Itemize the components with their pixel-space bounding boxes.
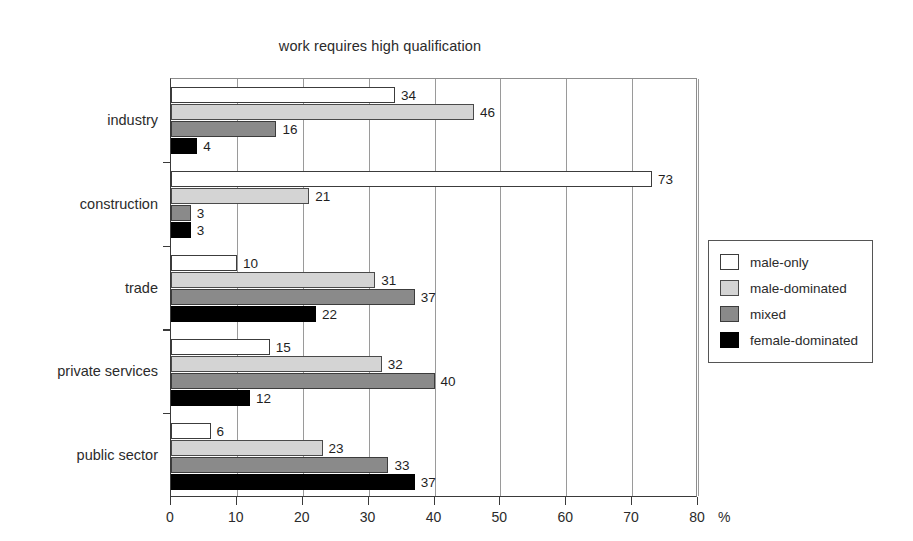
category-label-trade: trade — [0, 280, 158, 296]
bar-group: 15324012 — [171, 330, 696, 414]
legend-item-male-only[interactable]: male-only — [720, 253, 809, 271]
legend-label: male-only — [750, 255, 809, 270]
bar-row: 4 — [171, 138, 696, 154]
category-label-private-services: private services — [0, 363, 158, 379]
bar-male-only[interactable] — [171, 255, 237, 271]
category-axis-tick — [163, 162, 171, 163]
bar-row: 22 — [171, 306, 696, 322]
bar-male-dominated[interactable] — [171, 104, 474, 120]
legend-item-female-dominated[interactable]: female-dominated — [720, 331, 858, 349]
bar-male-only[interactable] — [171, 171, 652, 187]
bar-male-dominated[interactable] — [171, 356, 382, 372]
bar-female-dominated[interactable] — [171, 138, 197, 154]
bar-row: 21 — [171, 188, 696, 204]
bar-mixed[interactable] — [171, 205, 191, 221]
bar-male-only[interactable] — [171, 87, 395, 103]
legend-swatch-male-dominated-icon — [720, 280, 739, 296]
bar-female-dominated[interactable] — [171, 390, 250, 406]
bar-mixed[interactable] — [171, 373, 435, 389]
value-axis-tick — [302, 497, 303, 505]
bar-male-dominated[interactable] — [171, 440, 323, 456]
bar-row: 40 — [171, 373, 696, 389]
bar-row: 12 — [171, 390, 696, 406]
bar-mixed[interactable] — [171, 457, 388, 473]
category-axis-tick — [163, 413, 171, 414]
bar-value-label: 22 — [316, 306, 337, 321]
bar-value-label: 33 — [388, 457, 409, 472]
bar-row: 37 — [171, 474, 696, 490]
bar-female-dominated[interactable] — [171, 306, 316, 322]
value-axis-tick-label: 40 — [426, 509, 442, 525]
value-axis-tick-label: 10 — [228, 509, 244, 525]
value-axis: 01020304050607080 — [170, 497, 697, 498]
bar-value-label: 12 — [250, 390, 271, 405]
bar-value-label: 4 — [197, 139, 211, 154]
bar-value-label: 31 — [375, 272, 396, 287]
bar-row: 23 — [171, 440, 696, 456]
bar-female-dominated[interactable] — [171, 474, 415, 490]
bar-group: 10313722 — [171, 247, 696, 331]
value-axis-tick — [631, 497, 632, 505]
bar-row: 73 — [171, 171, 696, 187]
bar-value-label: 16 — [276, 122, 297, 137]
category-axis-labels: industryconstructiontradeprivate service… — [0, 78, 158, 497]
bar-value-label: 73 — [652, 172, 673, 187]
legend-label: male-dominated — [750, 281, 847, 296]
bar-value-label: 6 — [211, 423, 225, 438]
bar-value-label: 3 — [191, 206, 205, 221]
value-axis-tick — [170, 497, 171, 505]
bar-row: 3 — [171, 222, 696, 238]
legend-item-male-dominated[interactable]: male-dominated — [720, 279, 847, 297]
chart-legend: male-onlymale-dominatedmixedfemale-domin… — [708, 240, 873, 363]
category-label-industry: industry — [0, 112, 158, 128]
value-axis-tick-label: 60 — [557, 509, 573, 525]
value-axis-tick-label: 50 — [492, 509, 508, 525]
value-axis-tick-label: 20 — [294, 509, 310, 525]
legend-swatch-mixed-icon — [720, 306, 739, 322]
bar-value-label: 37 — [415, 289, 436, 304]
bar-row: 16 — [171, 121, 696, 137]
bar-male-only[interactable] — [171, 339, 270, 355]
bar-group: 6233337 — [171, 414, 696, 498]
gridline — [698, 79, 699, 496]
legend-label: mixed — [750, 307, 786, 322]
bar-chart: work requires high qualification industr… — [0, 0, 913, 541]
value-axis-tick — [697, 497, 698, 505]
bar-mixed[interactable] — [171, 121, 276, 137]
bar-row: 46 — [171, 104, 696, 120]
value-axis-tick-label: 70 — [623, 509, 639, 525]
bar-value-label: 3 — [191, 223, 205, 238]
value-axis-tick — [368, 497, 369, 505]
value-axis-tick — [499, 497, 500, 505]
bar-male-dominated[interactable] — [171, 188, 309, 204]
bar-value-label: 15 — [270, 339, 291, 354]
bar-row: 34 — [171, 87, 696, 103]
value-axis-tick — [236, 497, 237, 505]
axis-unit-label: % — [718, 509, 730, 525]
legend-label: female-dominated — [750, 333, 858, 348]
value-axis-tick-label: 30 — [360, 509, 376, 525]
bar-male-dominated[interactable] — [171, 272, 375, 288]
bar-group: 3446164 — [171, 79, 696, 163]
bar-value-label: 37 — [415, 474, 436, 489]
value-axis-tick — [434, 497, 435, 505]
legend-swatch-male-only-icon — [720, 254, 739, 270]
value-axis-tick — [565, 497, 566, 505]
bar-mixed[interactable] — [171, 289, 415, 305]
bar-group: 732133 — [171, 163, 696, 247]
bar-value-label: 40 — [435, 373, 456, 388]
bar-value-label: 21 — [309, 189, 330, 204]
bar-row: 32 — [171, 356, 696, 372]
value-axis-tick-label: 0 — [166, 509, 174, 525]
bar-value-label: 46 — [474, 105, 495, 120]
bar-male-only[interactable] — [171, 423, 211, 439]
bar-female-dominated[interactable] — [171, 222, 191, 238]
bar-row: 33 — [171, 457, 696, 473]
value-axis-tick-label: 80 — [689, 509, 705, 525]
legend-item-mixed[interactable]: mixed — [720, 305, 786, 323]
category-label-construction: construction — [0, 196, 158, 212]
bar-row: 10 — [171, 255, 696, 271]
bar-value-label: 10 — [237, 255, 258, 270]
category-axis-tick — [163, 329, 171, 330]
bar-value-label: 32 — [382, 356, 403, 371]
